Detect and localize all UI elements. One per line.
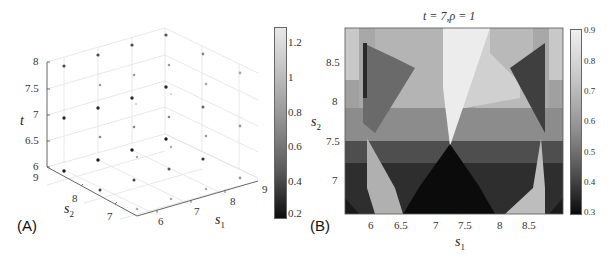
heatmap-x-tick-label: 6.5 [394,220,408,231]
s1-axis-label: s1 [215,212,225,230]
colorbar-b-tick: 0.5 [584,148,595,157]
z-tick-label: 7 [33,109,39,120]
z-axis-label: t [20,113,24,129]
heatmap-y-tick-label: 8.5 [326,57,340,68]
heatmap-x-tick-label: 8.5 [522,220,536,231]
panel-b: t = 7,ρ = 1 [306,0,612,257]
heatmap-y-tick-label: 7.5 [326,136,340,147]
panel-a-3d-axes [0,0,306,257]
colorbar-a-tick: 0.6 [288,141,302,152]
colorbar-b-tick: 0.3 [584,208,595,217]
z-tick-label: 6.5 [25,135,39,146]
colorbar-b [570,29,582,215]
panel-a: 8 7.5 7 6.5 6 t 9 8 7 s2 6 7 8 9 s1 1.2 … [0,0,306,257]
s1-tick-label: 8 [230,196,236,207]
heatmap-y-tick-label: 7 [332,175,338,186]
heatmap-y-axis-label: s2 [311,114,321,132]
s1-tick-label: 7 [194,206,200,217]
colorbar-a-tick: 0.2 [288,208,302,219]
colorbar-a-tick: 0.8 [288,107,302,118]
colorbar-a-tick: 1 [288,72,294,83]
heatmap-y-tick-label: 8 [332,96,338,107]
s1-tick-label: 6 [158,216,164,227]
panel-b-label: (B) [310,217,330,234]
heatmap-x-axis-label: s1 [455,234,465,252]
z-tick-label: 7.5 [25,83,39,94]
panel-a-label: (A) [17,217,37,234]
colorbar-b-tick: 0.4 [584,178,595,187]
heatmap-x-tick-label: 8 [497,220,503,231]
heatmap-x-tick-label: 7 [433,220,439,231]
heatmap-x-tick-label: 7.5 [458,220,472,231]
heatmap-x-tick-label: 6 [368,220,374,231]
colorbar-a-tick: 1.2 [288,37,302,48]
colorbar-b-tick: 0.8 [584,57,595,66]
s2-tick-label: 7 [107,211,113,222]
colorbar-b-tick: 0.9 [584,26,595,35]
colorbar-a [274,27,287,219]
colorbar-a-tick: 0.4 [288,176,302,187]
s1-tick-label: 9 [262,184,268,195]
colorbar-b-tick: 0.6 [584,117,595,126]
z-tick-label: 8 [33,56,39,67]
colorbar-b-tick: 0.7 [584,87,595,96]
s2-tick-label: 9 [33,172,39,183]
s2-axis-label: s2 [64,201,74,219]
